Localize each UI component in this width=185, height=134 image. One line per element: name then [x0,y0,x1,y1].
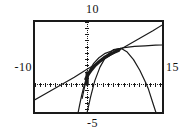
curve-group [35,23,164,114]
curve-flattening-curve [82,45,164,99]
calculator-screen: 10 -10 15 -5 [0,0,185,134]
plot-canvas [35,22,164,114]
window-ymax-label: 10 [0,3,185,15]
window-ymin-label: -5 [0,117,185,129]
window-xmin-label: -10 [2,61,32,73]
curve-overlap-bold-segment [86,50,119,79]
curve-downward-parabola [86,48,157,114]
plot-frame [33,20,164,114]
window-xmax-label: 15 [166,61,185,73]
